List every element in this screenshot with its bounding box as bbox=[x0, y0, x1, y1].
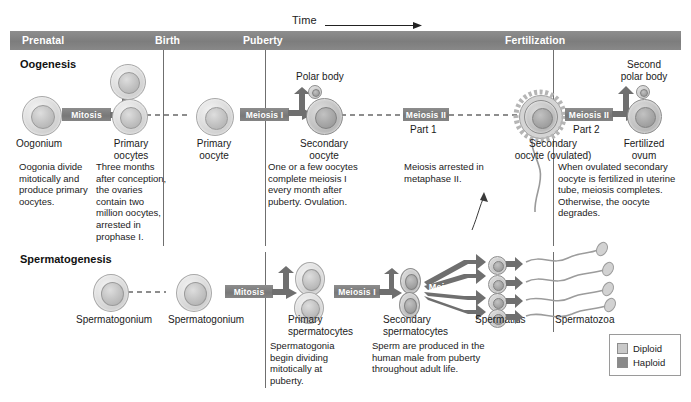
nucleus bbox=[635, 107, 656, 128]
caption-when-fertilized: When ovulated secondary oocyte is fertil… bbox=[558, 161, 680, 219]
nucleus bbox=[184, 282, 207, 306]
label-primary-oocyte: Primary oocyte bbox=[188, 138, 240, 161]
legend-label-haploid: Haploid bbox=[633, 357, 665, 368]
era-label-prenatal: Prenatal bbox=[22, 34, 64, 46]
label-secondary-oocyte: Secondary oocyte bbox=[297, 138, 351, 161]
label-line-1: Primary bbox=[188, 138, 240, 150]
label-primary-oocytes: Primary oocytes bbox=[105, 138, 157, 161]
caption-meiosis-arrested: Meiosis arrested in metaphase II. bbox=[404, 161, 488, 184]
process-meiosis-1-spermatogenesis: Meiosis I bbox=[334, 285, 380, 298]
label-oogonium: Oogonium bbox=[16, 138, 62, 150]
cell-spermatogonium-2 bbox=[176, 274, 212, 312]
nucleus bbox=[493, 280, 504, 291]
nucleus bbox=[205, 107, 228, 130]
nucleus bbox=[532, 108, 553, 129]
haploid-swatch-icon bbox=[617, 357, 628, 368]
nucleus bbox=[120, 107, 142, 129]
nucleus bbox=[312, 89, 320, 97]
process-meiosis-2-part-2: Meiosis II bbox=[565, 108, 613, 121]
process-mitosis-oogenesis: Mitosis bbox=[62, 108, 111, 121]
era-label-puberty: Puberty bbox=[243, 34, 283, 46]
label-part-2: Part 2 bbox=[573, 124, 600, 135]
nucleus bbox=[405, 274, 418, 290]
cell-fertilized-ovum bbox=[627, 99, 662, 134]
label-secondary-oocyte-ovulated: Secondary oocyte (ovulated) bbox=[498, 138, 608, 161]
nucleus bbox=[493, 261, 504, 272]
cell-spermatid-2 bbox=[488, 275, 507, 294]
nucleus bbox=[118, 72, 140, 94]
label-spermatogonium-1: Spermatogonium bbox=[76, 314, 152, 326]
cell-second-polar-body bbox=[636, 85, 650, 99]
era-label-fertilization: Fertilization bbox=[505, 34, 565, 46]
label-line-2: ovum bbox=[613, 150, 675, 162]
cell-primary-oocyte bbox=[196, 98, 234, 136]
cell-secondary-oocyte-ovulated bbox=[524, 100, 558, 134]
time-axis-label: Time bbox=[292, 14, 317, 26]
nucleus bbox=[101, 282, 124, 306]
label-line-2: spermatocytes bbox=[383, 326, 448, 338]
timeline-era-bar: Prenatal Birth Puberty Fertilization bbox=[10, 31, 681, 50]
process-meiosis-2-part-1: Meiosis II bbox=[403, 108, 449, 121]
caption-sperm-produced: Sperm are produced in the human male fro… bbox=[372, 340, 498, 375]
label-primary-spermatocytes: Primary spermatocytes bbox=[288, 314, 353, 337]
caption-three-months: Three months after conception, the ovari… bbox=[96, 161, 172, 242]
cell-secondary-oocyte bbox=[306, 98, 343, 135]
divider-puberty bbox=[265, 50, 266, 246]
nucleus bbox=[640, 89, 648, 97]
label-part-1: Part 1 bbox=[410, 124, 437, 135]
label-line-2: oocytes bbox=[105, 150, 157, 162]
caption-oogonia-divide: Oogonia divide mitotically and produce p… bbox=[19, 161, 91, 207]
process-meiosis-2-spermatogenesis: Meiosis II bbox=[424, 279, 476, 294]
label-second-polar-body: Second polar body bbox=[604, 59, 684, 82]
process-mitosis-spermatogenesis: Mitosis bbox=[225, 285, 273, 298]
caption-ovulation: One or a few oocytes complete meiosis I … bbox=[268, 161, 368, 207]
label-spermatogonium-2: Spermatogonium bbox=[168, 314, 244, 326]
label-line-1: Secondary bbox=[498, 138, 608, 150]
nucleus bbox=[493, 298, 504, 309]
nucleus bbox=[302, 269, 321, 291]
cell-spermatid-1 bbox=[488, 256, 507, 275]
label-line-2: oocyte bbox=[188, 150, 240, 162]
cell-secondary-spermatocyte-upper bbox=[400, 268, 421, 294]
diagram-canvas: Time Prenatal Birth Puberty Fertilizatio… bbox=[0, 0, 691, 402]
diploid-swatch-icon bbox=[617, 343, 628, 354]
era-label-birth: Birth bbox=[155, 34, 180, 46]
divider-puberty-lower bbox=[265, 252, 266, 388]
nucleus bbox=[404, 298, 417, 314]
label-line-2: oocyte (ovulated) bbox=[498, 150, 608, 162]
cell-primary-spermatocyte-upper bbox=[295, 262, 325, 296]
label-line-1: Second bbox=[604, 59, 684, 71]
cell-oogonium bbox=[22, 96, 62, 136]
time-arrow-icon bbox=[325, 21, 425, 30]
label-line-2: oocyte bbox=[297, 150, 351, 162]
label-line-1: Secondary bbox=[297, 138, 351, 150]
label-spermatozoa: Spermatozoa bbox=[555, 314, 614, 326]
cell-polar-body bbox=[308, 85, 322, 99]
oogenesis-heading: Oogenesis bbox=[20, 58, 76, 70]
caption-spermatogonia-dividing: Spermatogonia begin dividing mitotically… bbox=[270, 340, 352, 386]
nucleus bbox=[31, 105, 55, 129]
label-line-1: Primary bbox=[105, 138, 157, 150]
label-line-1: Fertilized bbox=[613, 138, 675, 150]
label-line-2: spermatocytes bbox=[288, 326, 353, 338]
label-line-2: polar body bbox=[604, 71, 684, 83]
label-line-1: Primary bbox=[288, 314, 353, 326]
legend: Diploid Haploid bbox=[609, 334, 681, 376]
label-polar-body: Polar body bbox=[296, 71, 344, 83]
legend-label-diploid: Diploid bbox=[633, 343, 662, 354]
process-meiosis-1-oogenesis: Meiosis I bbox=[240, 108, 289, 121]
cell-primary-oocyte-upper bbox=[110, 64, 146, 100]
legend-item-diploid: Diploid bbox=[617, 343, 680, 354]
spermatogenesis-heading: Spermatogenesis bbox=[20, 253, 112, 265]
cell-primary-oocytes bbox=[112, 99, 148, 135]
label-fertilized-ovum: Fertilized ovum bbox=[613, 138, 675, 161]
legend-item-haploid: Haploid bbox=[617, 357, 680, 368]
nucleus bbox=[315, 107, 337, 129]
cell-spermatogonium-1 bbox=[93, 274, 129, 312]
